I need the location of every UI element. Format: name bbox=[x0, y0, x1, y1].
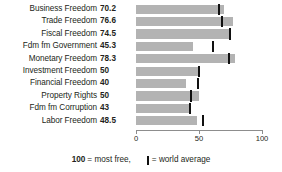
bar-track bbox=[136, 102, 262, 114]
category-label: Labor Freedom bbox=[0, 115, 97, 127]
category-label: Fdm fm Government bbox=[0, 40, 97, 52]
value-bar bbox=[136, 54, 235, 63]
axis-tick-label: 0 bbox=[134, 134, 138, 144]
world-average-marker-icon bbox=[221, 16, 223, 27]
value-bar bbox=[136, 79, 186, 88]
world-average-marker-icon bbox=[198, 66, 200, 77]
world-average-marker-icon bbox=[202, 115, 204, 126]
value-label: 78.3 bbox=[100, 53, 126, 65]
category-label: Monetary Freedom bbox=[0, 53, 97, 65]
chart-row: Financial Freedom40 bbox=[0, 77, 282, 89]
value-bar bbox=[136, 17, 233, 26]
legend-world-average-text: = world average bbox=[152, 154, 210, 166]
bar-track bbox=[136, 90, 262, 102]
chart-rows: Business Freedom70.2Trade Freedom76.6Fis… bbox=[0, 3, 282, 127]
legend-world-average: = world average bbox=[147, 154, 210, 166]
axis-tick-label: 100 bbox=[256, 134, 269, 144]
value-label: 76.6 bbox=[100, 15, 126, 27]
chart-row: Fiscal Freedom74.5 bbox=[0, 28, 282, 40]
world-average-marker-icon bbox=[190, 90, 192, 101]
bar-track bbox=[136, 115, 262, 127]
chart-row: Labor Freedom48.5 bbox=[0, 115, 282, 127]
legend-most-free-text: = most free, bbox=[87, 154, 130, 166]
category-label: Fiscal Freedom bbox=[0, 28, 97, 40]
value-label: 50 bbox=[100, 65, 126, 77]
category-label: Fdm fm Corruption bbox=[0, 102, 97, 114]
legend-most-free: 100 = most free, bbox=[72, 154, 131, 166]
value-label: 74.5 bbox=[100, 28, 126, 40]
bar-track bbox=[136, 3, 262, 15]
world-average-marker-icon bbox=[197, 78, 199, 89]
chart-row: Fdm fm Government45.3 bbox=[0, 40, 282, 52]
economic-freedom-chart: Business Freedom70.2Trade Freedom76.6Fis… bbox=[0, 0, 282, 172]
world-average-marker-icon bbox=[228, 53, 230, 64]
value-label: 43 bbox=[100, 102, 126, 114]
bar-track bbox=[136, 40, 262, 52]
world-average-marker-icon bbox=[229, 28, 231, 39]
legend-most-free-value: 100 bbox=[72, 154, 86, 166]
chart-row: Trade Freedom76.6 bbox=[0, 15, 282, 27]
category-label: Investment Freedom bbox=[0, 65, 97, 77]
bar-track bbox=[136, 53, 262, 65]
value-label: 45.3 bbox=[100, 40, 126, 52]
axis-tick-label: 50 bbox=[195, 134, 203, 144]
world-average-marker-icon bbox=[147, 156, 149, 165]
bar-track bbox=[136, 77, 262, 89]
value-label: 48.5 bbox=[100, 115, 126, 127]
value-label: 50 bbox=[100, 90, 126, 102]
value-bar bbox=[136, 42, 193, 51]
value-label: 70.2 bbox=[100, 3, 126, 15]
category-label: Property Rights bbox=[0, 90, 97, 102]
value-label: 40 bbox=[100, 77, 126, 89]
value-bar bbox=[136, 29, 230, 38]
category-label: Business Freedom bbox=[0, 3, 97, 15]
chart-row: Fdm fm Corruption43 bbox=[0, 102, 282, 114]
category-label: Financial Freedom bbox=[0, 77, 97, 89]
chart-row: Investment Freedom50 bbox=[0, 65, 282, 77]
world-average-marker-icon bbox=[218, 4, 220, 15]
world-average-marker-icon bbox=[189, 103, 191, 114]
chart-row: Property Rights50 bbox=[0, 90, 282, 102]
value-bar bbox=[136, 67, 199, 76]
value-bar bbox=[136, 104, 190, 113]
bar-track bbox=[136, 15, 262, 27]
chart-row: Business Freedom70.2 bbox=[0, 3, 282, 15]
value-bar bbox=[136, 116, 197, 125]
bar-track bbox=[136, 28, 262, 40]
value-bar bbox=[136, 5, 224, 14]
category-label: Trade Freedom bbox=[0, 15, 97, 27]
bar-track bbox=[136, 65, 262, 77]
chart-row: Monetary Freedom78.3 bbox=[0, 53, 282, 65]
chart-legend: 100 = most free, = world average bbox=[0, 152, 282, 168]
world-average-marker-icon bbox=[212, 41, 214, 52]
